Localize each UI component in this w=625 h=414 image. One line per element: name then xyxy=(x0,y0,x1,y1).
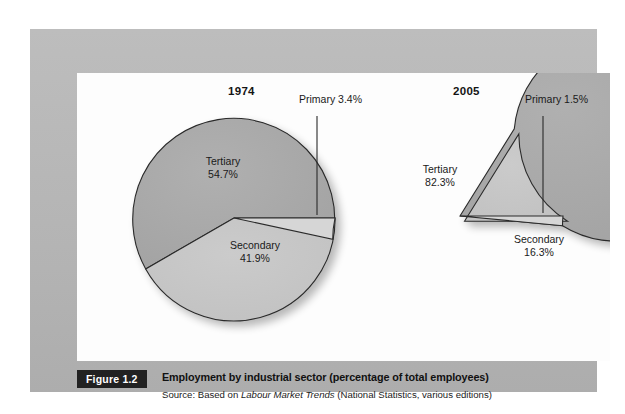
pie-1974-label-secondary: Secondary 41.9% xyxy=(212,239,298,265)
chart-title-2005: 2005 xyxy=(453,85,480,97)
pie-1974-label-primary-name: Primary xyxy=(299,93,335,105)
figure-source-line: Source: Based on Labour Market Trends (N… xyxy=(162,388,607,401)
figure-caption-block: Figure 1.2 Employment by industrial sect… xyxy=(77,370,610,388)
pie-1974-label-tertiary-pct: 54.7% xyxy=(187,168,259,181)
pie-1974-label-primary-pct: 3.4% xyxy=(338,93,362,105)
figure-caption-texts: Employment by industrial sector (percent… xyxy=(162,370,607,401)
figure-caption-title: Employment by industrial sector (percent… xyxy=(162,370,607,384)
figure-source-italic: Labour Market Trends xyxy=(241,389,335,400)
figure-source-suffix: (National Statistics, various editions) xyxy=(335,389,492,400)
figure-root: 1974 2005 Tertiary 54.7% Secondary 41.9%… xyxy=(0,0,625,414)
figure-number-tag: Figure 1.2 xyxy=(77,370,147,388)
pie-1974-label-tertiary-name: Tertiary xyxy=(206,155,240,167)
figure-source-prefix: Source: Based on xyxy=(162,389,241,400)
chart-title-1974: 1974 xyxy=(228,85,255,97)
pie-2005-label-tertiary: Tertiary 82.3% xyxy=(404,163,476,189)
pie-2005-label-secondary-name: Secondary xyxy=(514,233,564,245)
pie-1974-callout-primary: Primary 3.4% xyxy=(299,93,362,106)
pie-2005-label-primary-name: Primary xyxy=(525,93,561,105)
pie-1974-label-tertiary: Tertiary 54.7% xyxy=(187,155,259,181)
pie-1974-label-secondary-pct: 41.9% xyxy=(212,252,298,265)
pie-2005-label-primary-pct: 1.5% xyxy=(564,93,588,105)
pie-2005-label-secondary: Secondary 16.3% xyxy=(496,233,582,259)
pie-2005-label-tertiary-pct: 82.3% xyxy=(404,176,476,189)
pie-1974 xyxy=(133,118,335,321)
pie-2005-callout-primary: Primary 1.5% xyxy=(525,93,588,106)
pie-2005-label-tertiary-name: Tertiary xyxy=(423,163,457,175)
chart-plot-area: 1974 2005 Tertiary 54.7% Secondary 41.9%… xyxy=(77,73,610,361)
pie-1974-label-secondary-name: Secondary xyxy=(230,239,280,251)
pie-charts-svg xyxy=(77,73,610,361)
pie-2005-label-secondary-pct: 16.3% xyxy=(496,246,582,259)
figure-panel: 1974 2005 Tertiary 54.7% Secondary 41.9%… xyxy=(30,29,597,392)
